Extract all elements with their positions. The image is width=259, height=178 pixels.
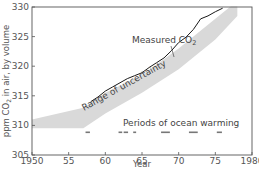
y-axis: 305310315320325330 [12,2,35,160]
y-axis-title: ppm CO2 in air, by volume [1,25,12,137]
uncertainty-label: Range of uncertainty [80,58,168,113]
ocean-warming-period [124,132,128,134]
x-tick-label: 1950 [21,156,44,166]
y-tick-label: 320 [12,61,29,71]
x-tick-label: 55 [63,156,74,166]
co2-chart: 305310315320325330 195055606570751980 Ye… [0,0,259,178]
y-tick-label: 310 [12,120,29,130]
ocean-warming-period [119,132,123,134]
x-tick-label: 75 [210,156,221,166]
ocean-warming-period [161,132,170,134]
y-tick-label: 315 [12,91,29,101]
x-tick-label: 60 [100,156,112,166]
uncertainty-band [32,1,237,128]
x-axis-title: Year [132,159,152,169]
y-tick-label: 330 [12,2,29,12]
ocean-warming-label: Periods of ocean warming [123,118,239,128]
y-tick-label: 325 [12,32,29,42]
ocean-warming-period [133,132,136,134]
ocean-warming-period [189,132,198,134]
x-tick-label: 70 [173,156,185,166]
ocean-warming-markers [86,132,222,134]
ocean-warming-period [86,132,90,134]
ocean-warming-period [217,132,222,134]
x-tick-label: 1980 [241,156,259,166]
